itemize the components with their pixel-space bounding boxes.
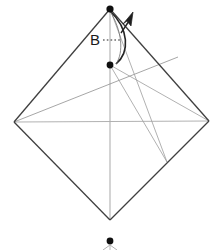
fold-arrow-head-icon (123, 12, 133, 26)
origami-fold-diagram: B (0, 0, 214, 250)
crease-horizontal-diagonal (14, 121, 209, 122)
fold-arrow-curve (110, 11, 126, 64)
dot-midpoint-b (107, 62, 114, 69)
below-mark-left (103, 245, 110, 250)
edge-bottom-left (14, 122, 110, 220)
edge-top-right (110, 9, 209, 121)
edge-top-left (14, 9, 110, 122)
diamond-outline-group (14, 9, 209, 220)
dot-below-figure (107, 238, 114, 245)
below-mark-right (110, 245, 117, 250)
diagram-canvas: B (0, 0, 214, 250)
edge-bottom-right (110, 121, 209, 220)
crease-midpoint-to-node (110, 65, 167, 162)
crease-midpoint-to-right (110, 65, 209, 121)
below-figure-partial-lines (103, 245, 117, 250)
label-b: B (90, 31, 100, 48)
crease-lines-group (14, 9, 209, 220)
dot-top-vertex (106, 5, 113, 12)
